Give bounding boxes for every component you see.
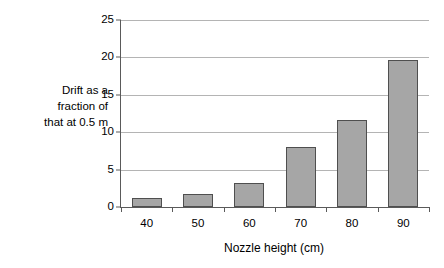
x-tick-label: 60 bbox=[243, 217, 256, 229]
bar bbox=[132, 198, 162, 207]
bar bbox=[183, 194, 213, 207]
y-tick-label: 20 bbox=[101, 52, 114, 64]
x-tick-label: 80 bbox=[346, 217, 359, 229]
bar bbox=[234, 183, 264, 207]
x-tick-label: 90 bbox=[397, 217, 410, 229]
y-tick-label: 5 bbox=[108, 164, 114, 176]
bar-chart: Drift as a fraction of that at 0.5 m 051… bbox=[0, 0, 444, 268]
x-tick-mark bbox=[224, 207, 225, 212]
bar bbox=[388, 60, 418, 207]
y-tick-label: 10 bbox=[101, 126, 114, 138]
x-tick-label: 50 bbox=[192, 217, 205, 229]
bars-layer bbox=[121, 20, 429, 207]
x-tick-mark bbox=[429, 207, 430, 212]
y-tick-label: 0 bbox=[108, 201, 114, 213]
x-axis-title: Nozzle height (cm) bbox=[120, 241, 428, 255]
plot-area: 0510152025 405060708090 bbox=[120, 20, 429, 208]
y-tick-label: 15 bbox=[101, 89, 114, 101]
x-tick-mark bbox=[172, 207, 173, 212]
bar bbox=[337, 120, 367, 207]
x-tick-mark bbox=[326, 207, 327, 212]
x-tick-mark bbox=[121, 207, 122, 212]
bar bbox=[286, 147, 316, 207]
x-tick-label: 40 bbox=[140, 217, 153, 229]
x-tick-mark bbox=[275, 207, 276, 212]
y-tick-label: 25 bbox=[101, 14, 114, 26]
y-axis-title: Drift as a fraction of that at 0.5 m bbox=[4, 82, 108, 130]
x-tick-label: 70 bbox=[294, 217, 307, 229]
x-tick-mark bbox=[378, 207, 379, 212]
